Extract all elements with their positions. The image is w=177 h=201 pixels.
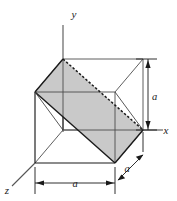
dim-arrow-depth-high [136,155,144,161]
dimension-label-depth: a [124,163,129,174]
axis-label-y: y [71,8,77,20]
figure-container: a a a y x z [0,0,177,201]
axis-label-z: z [4,184,10,196]
cube-diagram-svg: a a a y x z [0,0,177,201]
axis-label-x: x [163,124,169,136]
dim-arrow-left [36,181,44,186]
dim-arrow-bottom [145,121,150,129]
shaded-diagonal-plane [35,59,143,163]
shaded-plane-upper-half [35,59,143,163]
cube-edge-connect-top-right [115,59,143,92]
z-axis-line [12,163,35,186]
cube-edge-connect-bottom-left [35,130,63,163]
dim-arrow-depth-low [118,174,126,180]
dim-arrow-right [106,181,114,186]
dimension-label-width: a [72,178,77,189]
dimension-label-height: a [152,91,157,102]
dim-arrow-top [145,60,150,68]
